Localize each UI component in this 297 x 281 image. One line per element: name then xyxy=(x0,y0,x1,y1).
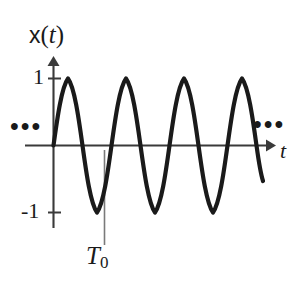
continuation-ellipsis-right: ••• xyxy=(253,112,285,137)
y-tick-label-negative-one: -1 xyxy=(21,200,39,222)
x-axis-arrowhead xyxy=(266,140,276,152)
y-axis-label: x(t) xyxy=(29,22,64,47)
y-tick-label-positive-one: 1 xyxy=(33,66,44,88)
period-label-base: T xyxy=(86,242,100,269)
continuation-ellipsis-left: ••• xyxy=(10,114,42,139)
y-axis-label-function: x xyxy=(29,22,41,48)
period-label: T0 xyxy=(86,243,108,271)
y-axis-label-open-paren: ( xyxy=(41,21,49,48)
y-axis-label-close-paren: ) xyxy=(56,21,64,48)
x-axis xyxy=(25,140,276,152)
y-axis-arrowhead xyxy=(48,56,60,66)
waveform-figure: x(t) 1 -1 ••• ••• t T0 xyxy=(0,0,297,281)
y-axis-label-variable: t xyxy=(49,21,56,48)
x-axis-label: t xyxy=(280,140,286,162)
period-label-subscript: 0 xyxy=(100,253,109,272)
